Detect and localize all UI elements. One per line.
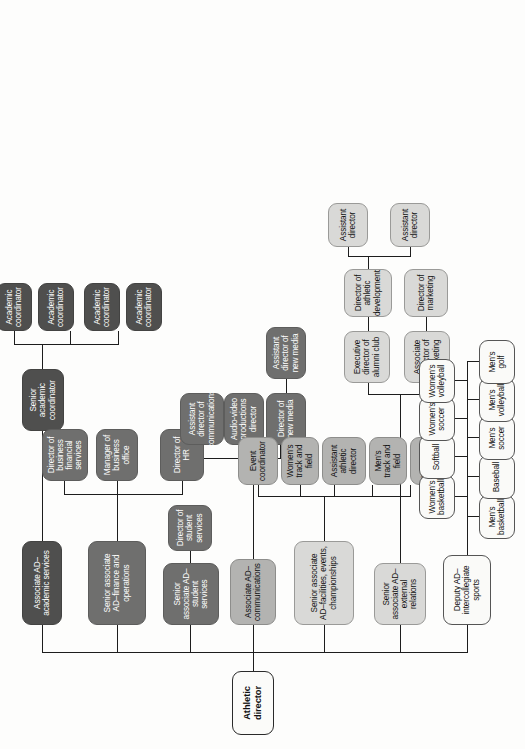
- node-mens-volleyball[interactable]: Men’s volleyball: [479, 378, 515, 422]
- finance-connector: [117, 495, 118, 541]
- external-relations-stub-alumni: [368, 383, 369, 395]
- node-assistant-athletic-director[interactable]: Assistant athletic director: [322, 437, 366, 485]
- node-senior-associate-ad-finance[interactable]: Senior associate AD–finance and operatio…: [88, 541, 146, 625]
- finance-child-stub-3: [182, 481, 183, 495]
- node-softball[interactable]: Softball: [419, 435, 455, 479]
- branch-stub-student-services: [190, 625, 191, 653]
- athletic-development-bus: [348, 256, 410, 257]
- branch-stub-academic-services: [42, 625, 43, 653]
- finance-child-stub-1: [64, 481, 65, 495]
- node-senior-associate-ad-external-relations[interactable]: Senior associate AD–external relations: [374, 563, 426, 625]
- node-academic-coordinator-2[interactable]: Academic coordinator: [38, 283, 74, 331]
- node-womens-volleyball[interactable]: Women’s volleyball: [419, 359, 455, 403]
- marketing-child-connector: [426, 317, 427, 331]
- academic-coordinator-stub-1: [14, 331, 15, 345]
- node-assistant-director-1[interactable]: Assistant director: [328, 203, 368, 247]
- branch-stub-communications: [253, 625, 254, 653]
- node-event-coordinator[interactable]: Event coordinator: [238, 437, 278, 485]
- node-mens-soccer[interactable]: Men’s soccer: [479, 416, 515, 460]
- external-relations-bus: [368, 394, 426, 395]
- branch-stub-external-relations: [400, 625, 401, 653]
- node-senior-associate-ad-student-services[interactable]: Senior associate AD–student services: [163, 563, 219, 625]
- node-manager-business-office[interactable]: Manager of business office: [96, 429, 138, 481]
- facilities-child-stub-4: [372, 485, 373, 497]
- org-chart-canvas: Athletic director Associate AD–academic …: [0, 0, 525, 749]
- node-assistant-director-communications[interactable]: Assistant director of communications: [180, 393, 224, 445]
- alumni-child-connector: [368, 317, 369, 331]
- node-academic-coordinator-1[interactable]: Academic coordinator: [0, 283, 32, 331]
- sports-bottom-stub-3: [467, 437, 479, 438]
- node-deputy-ad-intercollegiate-sports[interactable]: Deputy AD–intercollegiate sports: [443, 555, 491, 625]
- node-associate-ad-communications[interactable]: Associate AD–communications: [230, 559, 276, 625]
- facilities-child-stub-5: [410, 485, 411, 497]
- sports-bottom-stub-2: [467, 476, 479, 477]
- student-services-connector: [190, 551, 191, 563]
- sports-top-stub-1: [455, 496, 467, 497]
- node-womens-basketball[interactable]: Women’s basketball: [419, 475, 455, 519]
- node-mens-track-and-field[interactable]: Men’s track and field: [369, 437, 407, 485]
- node-director-business-financial-services[interactable]: Director of business financial services: [42, 429, 88, 481]
- facilities-connector: [324, 497, 325, 541]
- academic-coordinator-stub-2: [70, 331, 71, 345]
- node-director-of-marketing[interactable]: Director of marketing: [404, 269, 448, 317]
- branch-stub-intercollegiate: [467, 625, 468, 653]
- facilities-child-stub-3: [334, 485, 335, 497]
- sports-connector: [467, 361, 468, 555]
- sports-bottom-stub-4: [467, 399, 479, 400]
- node-academic-coordinator-3[interactable]: Academic coordinator: [84, 283, 120, 331]
- node-academic-coordinator-4[interactable]: Academic coordinator: [126, 283, 162, 331]
- node-director-of-athletic-development[interactable]: Director of athletic development: [344, 269, 392, 317]
- sports-top-stub-2: [455, 456, 467, 457]
- assistant-director-stub-1: [348, 247, 349, 257]
- root-stub: [253, 652, 254, 672]
- node-executive-director-alumni-club[interactable]: Executive director of alumni club: [344, 331, 390, 383]
- assistant-director-stub-2: [410, 247, 411, 257]
- branch-stub-facilities: [324, 625, 325, 653]
- node-assistant-director-new-media[interactable]: Assistant director of new media: [266, 327, 306, 379]
- node-athletic-director[interactable]: Athletic director: [232, 671, 274, 735]
- node-womens-track-and-field[interactable]: Women’s track and field: [281, 437, 319, 485]
- new-media-connector: [286, 379, 287, 393]
- academic-coordinators-bus: [14, 344, 118, 345]
- finance-child-stub-2: [117, 481, 118, 495]
- facilities-child-stub-1: [258, 485, 259, 497]
- node-assistant-director-2[interactable]: Assistant director: [390, 203, 430, 247]
- node-senior-associate-ad-facilities[interactable]: Senior associate AD–facilities, events, …: [294, 541, 354, 625]
- node-baseball[interactable]: Baseball: [479, 455, 515, 499]
- node-associate-ad-academic-services[interactable]: Associate AD–academic services: [22, 541, 62, 625]
- sports-bottom-stub-5: [467, 361, 479, 362]
- facilities-child-stub-2: [300, 485, 301, 497]
- athletic-development-stem: [368, 257, 369, 269]
- node-mens-golf[interactable]: Men’s golf: [479, 340, 515, 384]
- academic-coordinator-stub-3: [118, 331, 119, 345]
- node-senior-academic-coordinator[interactable]: Senior academic coordinator: [22, 369, 64, 431]
- sports-top-stub-3: [455, 418, 467, 419]
- sports-top-stub-4: [455, 380, 467, 381]
- finance-bus: [64, 494, 182, 495]
- node-mens-basketball[interactable]: Men’s basketball: [479, 495, 515, 539]
- senior-academic-coordinator-stem: [42, 345, 43, 369]
- root-spine: [42, 652, 468, 653]
- org-chart-stage: Athletic director Associate AD–academic …: [0, 0, 525, 749]
- sports-bottom-stub-1: [467, 516, 479, 517]
- node-director-of-student-services[interactable]: Director of student services: [168, 505, 212, 551]
- branch-stub-finance: [117, 625, 118, 653]
- node-womens-soccer[interactable]: Women’s soccer: [419, 397, 455, 441]
